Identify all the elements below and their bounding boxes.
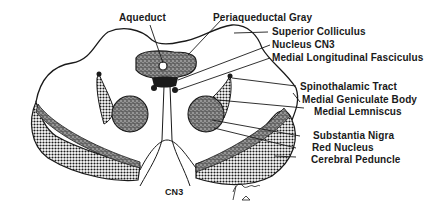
label-cn3: CN3 [165, 187, 183, 198]
label-superior-colliculus: Superior Colliculus [272, 26, 366, 37]
label-periaqueductal-gray: Periaqueductal Gray [213, 12, 312, 23]
label-spinothalamic-tract: Spinothalamic Tract [300, 81, 397, 92]
label-medial-geniculate-body: Medial Geniculate Body [302, 94, 417, 105]
mlf-left [151, 85, 157, 91]
label-red-nucleus: Red Nucleus [312, 142, 374, 153]
cn3-fiber-right [170, 86, 190, 186]
right-spinothalamic-dot [228, 74, 233, 79]
label-mlf: Medial Longitudinal Fasciculus [272, 52, 423, 63]
aqueduct [159, 62, 167, 70]
label-nucleus-cn3: Nucleus CN3 [272, 39, 335, 50]
left-spinothalamic-dot [97, 72, 102, 77]
left-medial-lemniscus [97, 74, 114, 124]
label-cerebral-peduncle: Cerebral Peduncle [311, 154, 401, 165]
interpeduncular-arch [140, 140, 196, 170]
cn3-fiber-left [140, 86, 164, 186]
midbrain-diagram: Aqueduct Periaqueductal Gray Superior Co… [0, 0, 432, 207]
mlf-right [172, 87, 178, 93]
label-substantia-nigra: Substantia Nigra [313, 130, 394, 141]
right-red-nucleus [188, 96, 224, 132]
label-medial-lemniscus: Medial Lemniscus [314, 106, 402, 117]
left-red-nucleus [112, 96, 148, 132]
artist-signature [233, 184, 260, 200]
label-aqueduct: Aqueduct [119, 12, 166, 23]
